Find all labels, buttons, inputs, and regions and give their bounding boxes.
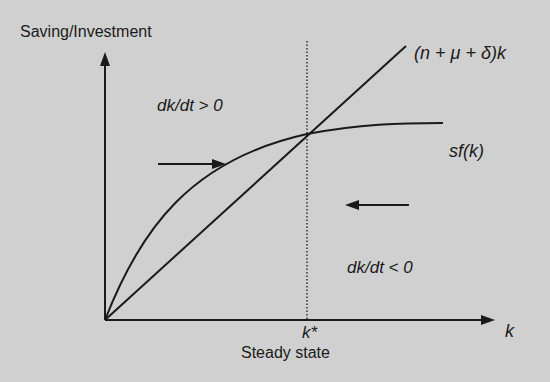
right-arrow-icon <box>158 159 226 169</box>
region-below-label: dk/dt < 0 <box>347 259 413 276</box>
x-axis <box>105 315 495 325</box>
y-axis-label: Saving/Investment <box>20 24 152 40</box>
kstar-label: k* <box>302 324 317 341</box>
left-arrow-icon <box>345 200 409 210</box>
x-axis-label: k <box>505 322 514 340</box>
curve-label: sf(k) <box>449 142 484 160</box>
steady-state-label: Steady state <box>241 345 330 361</box>
line-label-text: (n + μ + δ)k <box>414 43 506 63</box>
region-above-label: dk/dt > 0 <box>157 97 223 114</box>
diagram-canvas: Saving/Investment (n + μ + δ)k sf(k) dk/… <box>0 0 550 382</box>
y-axis <box>100 52 110 320</box>
line-label: (n + μ + δ)k <box>414 44 506 62</box>
depreciation-line <box>105 46 406 320</box>
savings-curve <box>105 123 443 320</box>
